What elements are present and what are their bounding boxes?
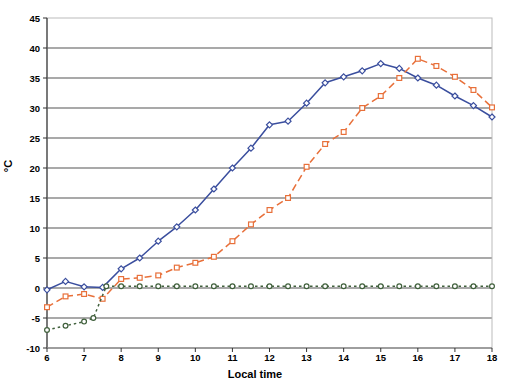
data-point bbox=[490, 105, 495, 110]
x-axis-title: Local time bbox=[0, 368, 510, 380]
data-point bbox=[63, 294, 68, 299]
data-point bbox=[341, 284, 346, 289]
series-line bbox=[47, 64, 492, 290]
data-point bbox=[452, 93, 458, 99]
data-point bbox=[323, 142, 328, 147]
data-point bbox=[304, 284, 309, 289]
data-point bbox=[82, 292, 87, 297]
data-point bbox=[63, 323, 68, 328]
chart-plot-svg bbox=[0, 0, 510, 389]
data-point bbox=[341, 130, 346, 135]
data-point bbox=[174, 265, 179, 270]
series-lines bbox=[44, 56, 495, 332]
data-point bbox=[119, 284, 124, 289]
data-point bbox=[267, 208, 272, 213]
data-point bbox=[453, 74, 458, 79]
data-point bbox=[415, 284, 420, 289]
data-point bbox=[304, 164, 309, 169]
data-point bbox=[156, 284, 161, 289]
data-point bbox=[82, 319, 87, 324]
data-point bbox=[453, 284, 458, 289]
data-point bbox=[81, 284, 87, 290]
data-point bbox=[119, 277, 124, 282]
data-point bbox=[137, 275, 142, 280]
data-point bbox=[230, 239, 235, 244]
data-point bbox=[415, 56, 420, 61]
data-point bbox=[323, 284, 328, 289]
data-point bbox=[45, 328, 50, 333]
axis-lines bbox=[47, 18, 492, 348]
data-point bbox=[360, 106, 365, 111]
data-point bbox=[490, 284, 495, 289]
data-point bbox=[434, 64, 439, 69]
data-point bbox=[341, 74, 347, 80]
data-point bbox=[156, 273, 161, 278]
chart-container: °C 454035302520151050-5-10 6789101112131… bbox=[0, 0, 510, 389]
data-point bbox=[211, 254, 216, 259]
data-point bbox=[91, 316, 96, 321]
data-point bbox=[434, 284, 439, 289]
data-point bbox=[378, 61, 384, 67]
data-point bbox=[45, 305, 50, 310]
data-point bbox=[104, 284, 109, 289]
plot-border bbox=[47, 18, 492, 348]
data-point bbox=[471, 284, 476, 289]
series-series-orange bbox=[45, 56, 495, 309]
data-point bbox=[193, 284, 198, 289]
data-point bbox=[286, 284, 291, 289]
data-point bbox=[378, 284, 383, 289]
data-point bbox=[397, 284, 402, 289]
data-point bbox=[415, 75, 421, 81]
data-point bbox=[359, 68, 365, 74]
data-point bbox=[211, 284, 216, 289]
data-point bbox=[249, 284, 254, 289]
data-point bbox=[249, 222, 254, 227]
data-point bbox=[267, 284, 272, 289]
data-point bbox=[360, 284, 365, 289]
data-point bbox=[174, 284, 179, 289]
data-point bbox=[378, 94, 383, 99]
data-point bbox=[193, 260, 198, 265]
data-point bbox=[230, 284, 235, 289]
data-point bbox=[396, 65, 402, 71]
data-point bbox=[433, 82, 439, 88]
data-point bbox=[63, 278, 69, 284]
data-point bbox=[137, 284, 142, 289]
data-point bbox=[286, 196, 291, 201]
series-line bbox=[47, 59, 492, 307]
data-point bbox=[397, 76, 402, 81]
series-line bbox=[47, 286, 492, 330]
grid-lines bbox=[47, 48, 492, 318]
data-point bbox=[471, 88, 476, 93]
series-series-green bbox=[45, 284, 495, 333]
